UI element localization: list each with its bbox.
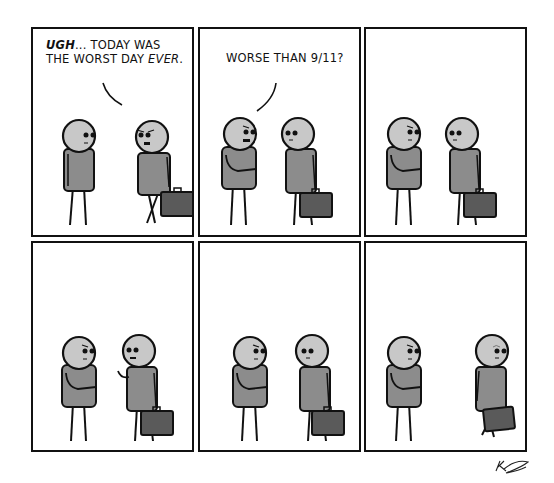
character-right: [136, 121, 194, 223]
briefcase-icon: [464, 193, 496, 217]
comic-strip: UGH... TODAY WAS THE WORST DAY EVER.: [0, 0, 554, 483]
speech-tail: [103, 83, 122, 105]
briefcase-icon: [300, 193, 332, 217]
briefcase-icon: [161, 192, 194, 216]
panel-5: [198, 241, 361, 452]
panel-1: UGH... TODAY WAS THE WORST DAY EVER.: [31, 27, 194, 237]
panel-6: [364, 241, 527, 452]
character-right-walking-away: [476, 335, 515, 437]
panel-4: [31, 241, 194, 452]
character-left: [387, 118, 421, 225]
character-right: [296, 335, 344, 441]
character-left: [62, 337, 96, 441]
briefcase-icon: [483, 406, 515, 431]
character-left: [63, 120, 96, 225]
panel-6-art: [366, 243, 527, 452]
character-right: [118, 335, 173, 441]
panel-1-art: [33, 29, 194, 237]
panel-5-art: [200, 243, 361, 452]
character-left: [222, 118, 256, 225]
character-right: [282, 118, 332, 225]
artist-signature: [492, 455, 534, 477]
speech-tail: [257, 83, 276, 111]
panel-2: WORSE THAN 9/11?: [198, 27, 361, 237]
panel-2-art: [200, 29, 361, 237]
panel-3-art: [366, 29, 527, 237]
panel-3: [364, 27, 527, 237]
character-left: [233, 337, 267, 441]
character-right: [446, 118, 496, 225]
panel-4-art: [33, 243, 194, 452]
briefcase-icon: [312, 411, 344, 435]
character-left: [387, 337, 421, 441]
briefcase-icon: [141, 411, 173, 435]
